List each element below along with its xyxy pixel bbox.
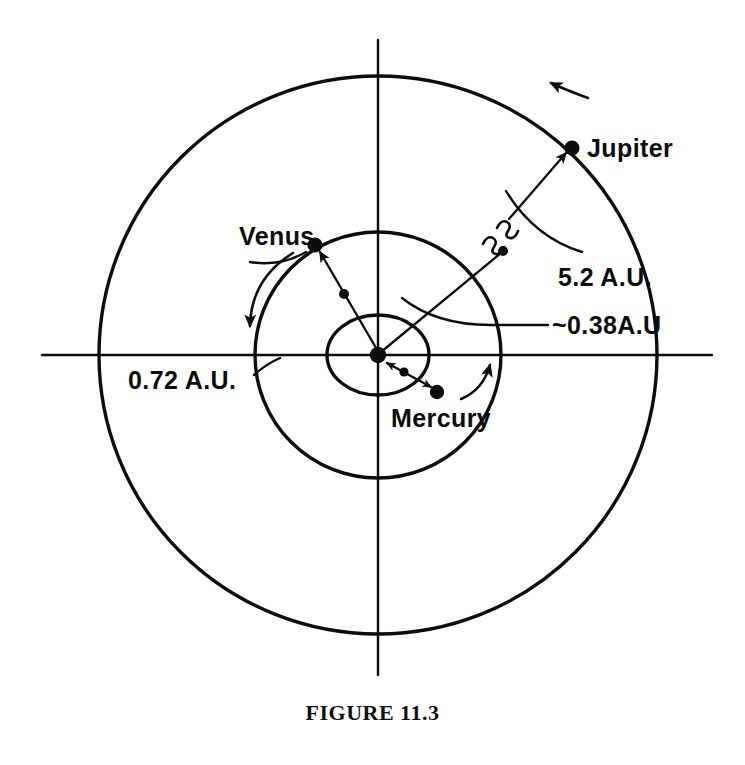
venus-distance-label: 0.72 A.U. xyxy=(128,366,236,394)
mercury-radius-midpoint-dot xyxy=(399,367,408,376)
mercury-distance-label: ~0.38A.U xyxy=(552,311,662,339)
mercury-label: Mercury xyxy=(391,404,491,432)
jupiter-label: Jupiter xyxy=(587,134,673,162)
venus-radius-line xyxy=(320,252,379,353)
figure-caption: FIGURE 11.3 xyxy=(0,700,745,726)
leader-lines-group xyxy=(250,191,582,375)
venus-label: Venus xyxy=(239,222,315,250)
jupiter-rotation-arrow-icon xyxy=(551,83,588,98)
mercury-distance-leader xyxy=(402,298,548,325)
jupiter-distance-label: 5.2 A.U. xyxy=(558,263,652,291)
sun-center-dot xyxy=(370,347,386,363)
jupiter-distance-leader xyxy=(506,191,582,252)
venus-radius-vector xyxy=(320,252,379,353)
figure-page: Jupiter Venus Mercury 5.2 A.U. ~0.38A.U … xyxy=(0,0,745,765)
orbit-diagram: Jupiter Venus Mercury 5.2 A.U. ~0.38A.U … xyxy=(0,0,745,765)
mercury-rotation-arrow-icon xyxy=(461,365,490,399)
venus-distance-leader xyxy=(254,358,280,375)
venus-radius-midpoint-dot xyxy=(339,289,349,299)
jupiter-planet-dot xyxy=(564,140,579,155)
jupiter-radius-segment-inner xyxy=(381,253,501,352)
mercury-planet-dot xyxy=(430,385,444,399)
